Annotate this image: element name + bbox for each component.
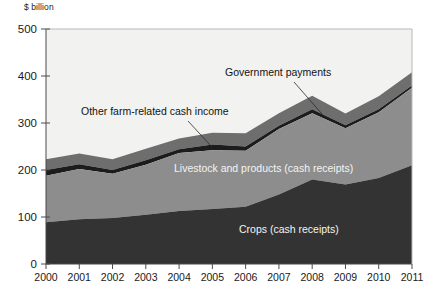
x-tick-label: 2010 (367, 271, 391, 283)
x-tick-label: 2011 (401, 271, 424, 283)
x-tick-label: 2006 (234, 271, 258, 283)
annotation-livestock-label: Livestock and products (cash receipts) (174, 162, 353, 174)
x-tick-label: 2001 (68, 271, 92, 283)
stacked-area-chart: 0100200300400500 20002001200220032004200… (0, 0, 427, 292)
annotation-government-payments-label: Government payments (225, 66, 331, 78)
chart-page: $ billion 0100200300400500 2000200120022… (0, 0, 427, 292)
x-tick-label: 2007 (267, 271, 291, 283)
x-tick-label: 2009 (334, 271, 358, 283)
y-tick-label: 500 (18, 23, 37, 35)
annotation-crops-label: Crops (cash receipts) (239, 223, 339, 235)
y-tick-label: 300 (18, 117, 37, 129)
y-tick-label: 400 (18, 70, 37, 82)
x-tick-label: 2008 (301, 271, 325, 283)
x-tick-label: 2002 (101, 271, 125, 283)
y-tick-label: 200 (18, 164, 37, 176)
annotation-other-farm-related-label: Other farm-related cash income (81, 105, 229, 117)
x-tick-label: 2004 (167, 271, 191, 283)
x-tick-label: 2003 (134, 271, 158, 283)
x-axis-ticks: 2000200120022003200420052006200720082009… (34, 264, 423, 283)
x-tick-label: 2000 (34, 271, 58, 283)
y-axis-ticks: 0100200300400500 (18, 23, 50, 270)
x-tick-label: 2005 (201, 271, 225, 283)
y-tick-label: 100 (18, 211, 37, 223)
y-tick-label: 0 (31, 258, 37, 270)
